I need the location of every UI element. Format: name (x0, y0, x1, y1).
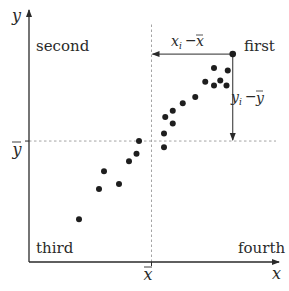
y-axis-label: y (11, 6, 22, 25)
svg-text:−: − (245, 88, 257, 104)
x-axis-label: x (272, 264, 281, 283)
data-point (224, 83, 230, 89)
data-point (170, 108, 176, 114)
scatter-deviation-diagram: y x x y second first third fourth x i − … (0, 0, 289, 291)
data-point (192, 94, 198, 100)
data-point (101, 168, 107, 174)
data-point (180, 100, 186, 106)
quadrant-label-second: second (36, 37, 90, 55)
data-point (96, 186, 102, 192)
data-point (116, 181, 122, 187)
svg-text:−: − (185, 32, 197, 48)
data-point (161, 130, 167, 136)
svg-text:i: i (239, 97, 242, 107)
quadrant-label-fourth: fourth (238, 239, 285, 257)
data-point (211, 65, 217, 71)
data-point (202, 79, 208, 85)
data-point (76, 216, 82, 222)
data-point (162, 114, 168, 120)
x-deviation-label: x i − x (171, 32, 204, 51)
data-point (161, 144, 167, 150)
x-mean-label: x (144, 265, 153, 284)
data-point (136, 138, 142, 144)
y-deviation-label: y i − y (230, 88, 265, 107)
data-point (217, 78, 223, 84)
data-points (76, 51, 236, 222)
svg-text:y: y (255, 90, 265, 106)
data-point (126, 158, 132, 164)
data-point (211, 83, 217, 89)
svg-text:y: y (12, 140, 23, 159)
quadrant-label-first: first (244, 37, 275, 55)
svg-text:x: x (171, 33, 179, 49)
data-point (134, 151, 140, 157)
highlighted-data-point (229, 51, 236, 58)
svg-text:x: x (144, 265, 153, 284)
data-point (170, 120, 176, 126)
svg-text:i: i (179, 41, 182, 51)
data-point (225, 67, 231, 73)
svg-text:x: x (196, 33, 204, 49)
quadrant-label-third: third (36, 239, 74, 257)
y-mean-label: y (12, 140, 23, 159)
